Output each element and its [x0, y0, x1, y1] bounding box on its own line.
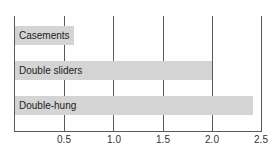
bar-double-hung: Double-hung: [15, 96, 253, 115]
x-tick-label: 1.0: [107, 134, 121, 145]
bar-double-sliders: Double sliders: [15, 61, 212, 80]
gridline-2-5: [261, 16, 262, 132]
bar-label: Casements: [19, 26, 70, 45]
y-axis: [14, 16, 15, 132]
bar-label: Double-hung: [19, 96, 76, 115]
x-axis: [14, 131, 262, 132]
bar-label: Double sliders: [19, 61, 82, 80]
x-tick-label: 1.5: [156, 134, 170, 145]
bar-chart: Casements Double sliders Double-hung 0.5…: [0, 0, 279, 153]
bar-casements: Casements: [15, 26, 74, 45]
x-tick-label: 0.5: [57, 134, 71, 145]
x-tick-label: 2.5: [254, 134, 268, 145]
x-tick-label: 2.0: [205, 134, 219, 145]
